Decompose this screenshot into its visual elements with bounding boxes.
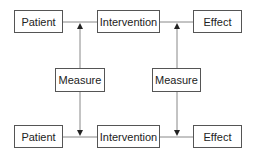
top-patient-box: Patient (14, 10, 63, 33)
arrow-up-icon (174, 23, 180, 29)
box-label: Measure (59, 74, 102, 86)
arrow-down-icon (174, 130, 180, 136)
box-label: Intervention (100, 131, 157, 143)
arrow-down-icon (77, 130, 83, 136)
box-label: Effect (204, 16, 232, 28)
top-effect-box: Effect (193, 10, 242, 33)
bottom-patient-box: Patient (14, 125, 63, 148)
bottom-effect-box: Effect (193, 125, 242, 148)
box-label: Intervention (100, 16, 157, 28)
measure-box-left: Measure (55, 68, 105, 92)
box-label: Patient (21, 16, 55, 28)
box-label: Patient (21, 131, 55, 143)
arrow-up-icon (77, 23, 83, 29)
measure-box-right: Measure (152, 68, 201, 92)
bottom-intervention-box: Intervention (97, 125, 160, 148)
box-label: Effect (204, 131, 232, 143)
box-label: Measure (155, 74, 198, 86)
top-intervention-box: Intervention (97, 10, 160, 33)
